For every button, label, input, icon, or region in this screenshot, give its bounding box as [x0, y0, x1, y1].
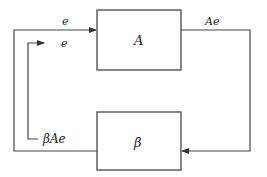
block-a-label: A	[133, 33, 143, 48]
forward-output-wire	[181, 30, 250, 151]
feedback-diagram: e e Ae βAe A β	[0, 0, 267, 177]
label-e-inner: e	[61, 37, 68, 50]
label-e-top: e	[62, 15, 69, 28]
label-beta-ae: βAe	[42, 132, 66, 146]
label-ae: Ae	[204, 15, 220, 28]
inner-e-wire	[28, 43, 44, 139]
block-beta-label: β	[133, 135, 142, 150]
